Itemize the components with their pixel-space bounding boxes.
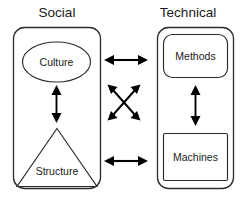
- connector-structure-machines: [104, 156, 148, 166]
- diagram-canvas: Social Technical Culture Structure Metho…: [0, 0, 243, 202]
- connector-culture-structure: [52, 85, 62, 123]
- structure-node-label: Structure: [36, 165, 79, 177]
- structure-node-shape: [17, 129, 97, 187]
- machines-node-label: Machines: [173, 151, 218, 163]
- social-panel-title: Social: [39, 5, 76, 20]
- connector-methods-machines: [191, 85, 201, 126]
- methods-node-label: Methods: [175, 50, 215, 62]
- connector-culture-methods: [104, 55, 148, 65]
- culture-node-label: Culture: [40, 56, 74, 68]
- socio-technical-diagram: Social Technical Culture Structure Metho…: [0, 0, 243, 202]
- technical-panel-title: Technical: [160, 5, 216, 20]
